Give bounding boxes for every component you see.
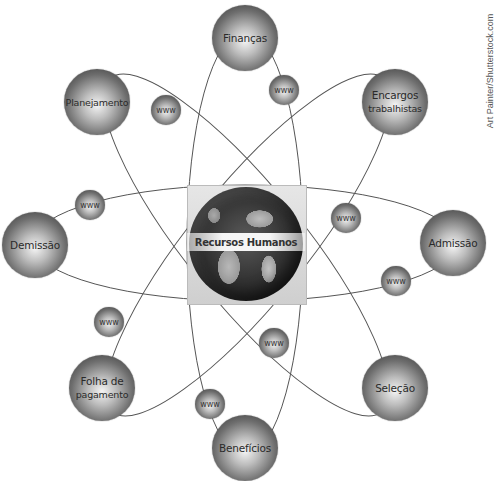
image-credit: Art Painter/Shutterstock.com (484, 6, 496, 136)
center-label: Recursos Humanos (187, 233, 305, 251)
satellite-www: www (331, 203, 361, 233)
satellite-www: www (259, 328, 289, 358)
satellite-www: www (195, 389, 225, 419)
satellite-www: www (151, 95, 181, 125)
satellite-www: www (269, 75, 299, 105)
satellite-www: www (381, 266, 411, 296)
node-planejamento: Planejamento (64, 69, 130, 135)
node-folha-de-pagamento: Folha de pagamento (69, 355, 135, 421)
node-demissao: Demissão (2, 212, 68, 278)
satellite-www: www (75, 190, 105, 220)
node-financas: Finanças (212, 5, 278, 71)
node-encargos-trabalhistas: Encargos trabalhistas (362, 69, 428, 135)
node-selecao: Seleção (362, 355, 428, 421)
node-beneficios: Benefícios (212, 415, 278, 481)
satellite-www: www (94, 307, 124, 337)
node-admissao: Admissão (420, 210, 486, 276)
